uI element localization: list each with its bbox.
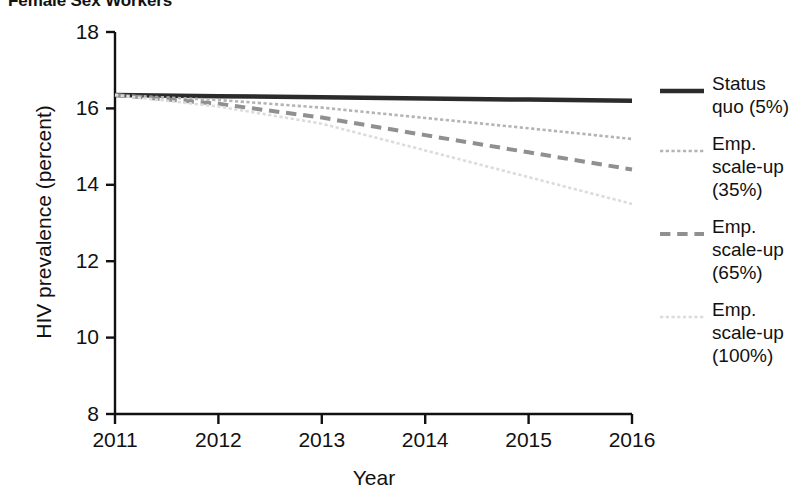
legend-entry-2[interactable]: Emp.scale-up(35%)	[660, 132, 797, 201]
legend-swatch-icon	[660, 224, 704, 232]
axis-lines	[115, 32, 632, 414]
y-tick-label: 10	[76, 325, 99, 348]
legend-label: Statusquo (5%)	[712, 72, 797, 118]
legend-swatch-icon	[660, 81, 704, 89]
series-line-4	[115, 95, 632, 204]
chart-figure: Female Sex Workers HIV prevalence (perce…	[0, 0, 797, 500]
x-tick-label: 2012	[195, 428, 242, 451]
legend-label: Emp.scale-up(65%)	[712, 215, 797, 284]
x-tick-label: 2016	[609, 428, 656, 451]
y-tick-label: 12	[76, 249, 99, 272]
legend: Statusquo (5%)Emp.scale-up(35%)Emp.scale…	[660, 72, 797, 381]
legend-entry-1[interactable]: Statusquo (5%)	[660, 72, 797, 118]
legend-label: Emp.scale-up(35%)	[712, 132, 797, 201]
legend-swatch-icon	[660, 307, 704, 315]
legend-label: Emp.scale-up(100%)	[712, 298, 797, 367]
tick-marks-group	[106, 32, 632, 424]
y-tick-labels: 81012141618	[76, 20, 100, 425]
x-tick-label: 2013	[298, 428, 345, 451]
x-tick-labels: 201120122013201420152016	[92, 428, 655, 451]
y-tick-label: 8	[87, 402, 99, 425]
legend-swatch-icon	[660, 141, 704, 149]
y-tick-label: 18	[76, 20, 99, 43]
legend-entry-4[interactable]: Emp.scale-up(100%)	[660, 298, 797, 367]
x-tick-label: 2014	[402, 428, 449, 451]
series-line-3	[115, 95, 632, 169]
x-tick-label: 2011	[92, 428, 137, 451]
axis-group	[115, 32, 632, 414]
legend-entry-3[interactable]: Emp.scale-up(65%)	[660, 215, 797, 284]
series-lines-group	[115, 95, 632, 204]
x-tick-label: 2015	[505, 428, 552, 451]
y-tick-label: 14	[76, 172, 100, 195]
y-tick-label: 16	[76, 96, 99, 119]
